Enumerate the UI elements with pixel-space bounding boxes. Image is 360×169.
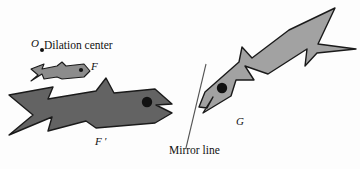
mirror-line-label: Mirror line	[169, 145, 220, 157]
dilation-center-text-label: Dilation center	[44, 40, 113, 52]
mirrored-fish-G-shape	[199, 8, 356, 113]
dilation-center-point-label: O	[31, 38, 39, 49]
large-fish-eye-icon	[142, 97, 152, 107]
mirrored-fish-label: G	[236, 116, 244, 127]
geometry-figure: O Dilation center F F ′ G Mirror line	[0, 0, 360, 169]
small-fish-label: F	[91, 61, 98, 72]
large-fish-label: F ′	[95, 136, 106, 147]
small-fish-eye-icon	[79, 68, 83, 72]
mirrored-fish-eye-icon	[217, 83, 227, 93]
